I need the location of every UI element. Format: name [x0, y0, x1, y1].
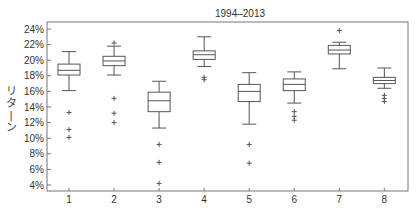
y-tick-label: 14% [24, 102, 44, 113]
x-tick-label: 2 [111, 194, 117, 205]
iqr-box [238, 84, 260, 101]
x-tick-label: 3 [156, 194, 162, 205]
box-1 [58, 52, 80, 140]
x-tick-label: 6 [291, 194, 297, 205]
box-5 [238, 73, 260, 166]
y-tick-label: 4% [30, 180, 45, 191]
chart-title: 1994–2013 [215, 8, 265, 19]
x-tick-label: 7 [337, 194, 343, 205]
box-8 [373, 68, 395, 104]
x-tick-label: 4 [201, 194, 207, 205]
plot-area-frame [47, 22, 408, 191]
y-axis-label-char: ン [4, 122, 18, 134]
y-tick-label: 8% [30, 148, 45, 159]
x-tick-label: 5 [246, 194, 252, 205]
x-tick-label: 1 [66, 194, 72, 205]
x-tick-label: 8 [382, 194, 388, 205]
y-axis-label: リタ|ン [4, 86, 18, 134]
iqr-box [58, 64, 80, 75]
y-tick-label: 10% [24, 133, 44, 144]
iqr-box [148, 92, 170, 112]
box-plot-chart: 1994–2013 4%6%8%10%12%14%16%18%20%22%24%… [0, 0, 419, 218]
y-tick-label: 16% [24, 86, 44, 97]
y-tick-label: 24% [24, 24, 44, 35]
y-tick-label: 22% [24, 39, 44, 50]
box-4 [193, 37, 215, 82]
y-tick-label: 20% [24, 55, 44, 66]
y-tick-label: 18% [24, 70, 44, 81]
box-3 [148, 81, 170, 186]
box-6 [283, 72, 305, 123]
y-tick-label: 12% [24, 117, 44, 128]
box-series [58, 28, 395, 186]
box-7 [328, 28, 350, 69]
box-2 [103, 41, 125, 126]
y-tick-label: 6% [30, 164, 45, 175]
